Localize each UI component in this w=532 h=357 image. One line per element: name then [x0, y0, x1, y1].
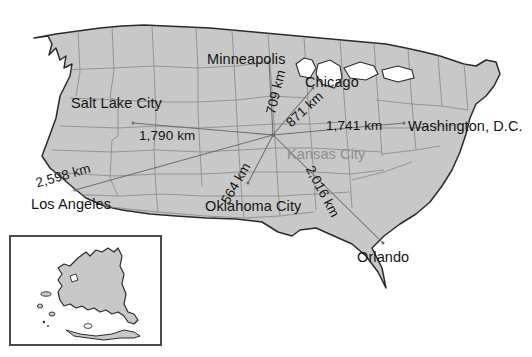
distance-map: Minneapolis Chicago Washington, D.C. Orl… — [0, 0, 532, 357]
city-label-minneapolis: Minneapolis — [207, 51, 285, 67]
city-label-los-angeles: Los Angeles — [31, 196, 111, 212]
city-dot-kansas-city — [271, 133, 275, 137]
city-label-washington-dc: Washington, D.C. — [408, 118, 523, 134]
city-dot-los-angeles — [74, 189, 77, 192]
city-label-chicago: Chicago — [305, 74, 359, 90]
city-dot-washington — [403, 122, 406, 125]
city-dot-oklahoma-city — [247, 182, 250, 185]
city-label-kansas-city: Kansas City — [287, 146, 365, 162]
distance-label-washington-dc: 1,741 km — [326, 118, 382, 133]
alaska-inset — [10, 236, 161, 345]
city-dot-orlando — [382, 242, 385, 245]
city-label-salt-lake-city: Salt Lake City — [71, 95, 162, 111]
city-dot-salt-lake-city — [132, 122, 135, 125]
distance-label-salt-lake-city: 1,790 km — [139, 128, 195, 143]
city-label-orlando: Orlando — [357, 249, 409, 265]
